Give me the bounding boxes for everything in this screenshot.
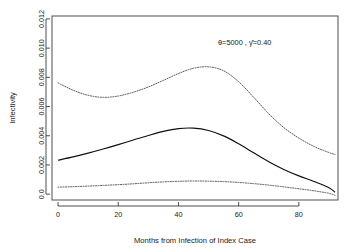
y-axis-title: Infectivity: [8, 92, 17, 124]
x-axis-title: Months from Infection of Index Case: [134, 236, 256, 245]
y-tick-label: 0.008: [38, 68, 47, 86]
x-tick-label: 60: [235, 210, 243, 219]
chart-annotations: θ=5000 , γ̂=0.40: [218, 38, 271, 47]
y-tick-label: 0.006: [38, 98, 47, 116]
curve-dotted: [58, 181, 335, 195]
infectivity-line-chart: 0.00.0020.0040.0060.0080.0100.012 020406…: [0, 0, 355, 252]
y-tick-label: 0.002: [38, 156, 47, 174]
plot-frame: [52, 16, 338, 200]
x-tick-label: 40: [174, 210, 182, 219]
y-tick-label: 0.010: [38, 39, 47, 57]
x-tick-label: 0: [56, 210, 60, 219]
x-tick-label: 80: [295, 210, 303, 219]
parameter-annotation: θ=5000 , γ̂=0.40: [218, 38, 271, 47]
curve-dotted: [58, 67, 335, 155]
chart-figure: 0.00.0020.0040.0060.0080.0100.012 020406…: [0, 0, 355, 252]
x-axis-ticks: 020406080: [56, 202, 303, 219]
x-tick-label: 20: [114, 210, 122, 219]
y-tick-label: 0.012: [38, 10, 47, 28]
y-axis-ticks: 0.00.0020.0040.0060.0080.0100.012: [38, 10, 51, 199]
data-curves: [58, 67, 335, 196]
curve-solid: [58, 128, 335, 192]
y-tick-label: 0.004: [38, 127, 47, 145]
y-tick-label: 0.0: [38, 189, 47, 199]
